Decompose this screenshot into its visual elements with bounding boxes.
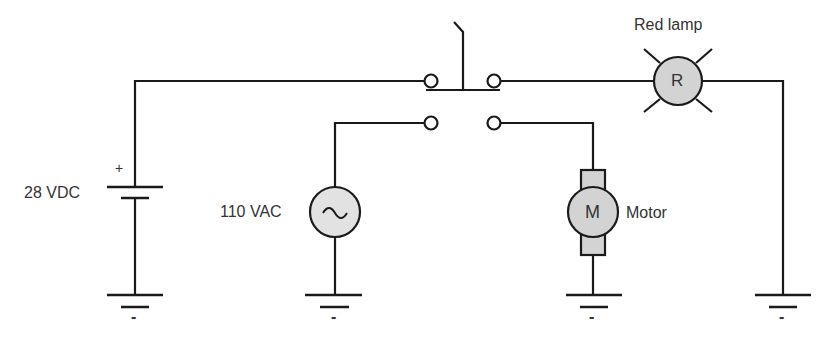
- lamp-ray: [644, 99, 660, 112]
- switch-actuator: [454, 22, 463, 90]
- battery-plus-sign: +: [115, 160, 123, 176]
- wire-lamp-ground: [702, 81, 783, 295]
- switch-terminal-bottom-right: [488, 117, 501, 130]
- ground-minus: -: [331, 308, 336, 326]
- ac-source-label: 110 VAC: [220, 203, 282, 221]
- wire-battery-top: [135, 81, 424, 187]
- lamp-ray: [644, 49, 660, 63]
- lamp-ray: [696, 49, 712, 63]
- ground-symbol: [107, 295, 811, 307]
- ground-minus: -: [589, 308, 594, 326]
- motor-label: Motor: [626, 204, 667, 222]
- ground-minus: -: [779, 308, 784, 326]
- battery-label: 28 VDC: [24, 184, 80, 202]
- lamp-symbol: R: [671, 71, 683, 91]
- motor-symbol: M: [585, 202, 600, 223]
- switch-terminal-top-right: [488, 75, 501, 88]
- wire-ac-top: [335, 123, 424, 187]
- switch-terminal-top-left: [425, 75, 438, 88]
- ground-minus: -: [131, 308, 136, 326]
- switch-terminal-bottom-left: [425, 117, 438, 130]
- lamp-label: Red lamp: [634, 16, 702, 34]
- wire-motor-top: [500, 123, 593, 171]
- schematic-canvas: [0, 0, 835, 348]
- lamp-ray: [696, 99, 712, 112]
